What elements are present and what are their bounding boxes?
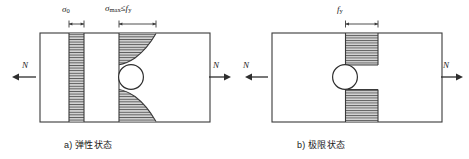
load-arrow-far-right	[441, 74, 463, 81]
dimension-sigma-0	[69, 21, 84, 28]
stress-distribution-figure	[0, 0, 469, 159]
label-f-y-subscript: y	[340, 7, 343, 14]
yield-block-upper-b	[346, 33, 379, 65]
yield-block-lower-b	[346, 90, 379, 123]
label-f-y: fy	[337, 4, 343, 14]
panel-b	[245, 21, 463, 123]
panel-a	[12, 21, 231, 123]
label-sigma-0: σ0	[62, 4, 70, 14]
caption-panel-a: a) 弹性状态	[64, 138, 112, 151]
uniform-stress-block-a	[69, 33, 84, 122]
load-label-mid-left: N	[213, 60, 219, 70]
load-label-far-left: N	[22, 60, 28, 70]
label-sigma-max: σmax≤fy	[105, 3, 131, 13]
load-arrow-far-left	[12, 74, 36, 81]
label-sigma-max-subscript: max	[109, 6, 120, 13]
hole-a	[119, 65, 144, 90]
load-label-far-right: N	[443, 60, 449, 70]
dimension-sigma-max	[119, 21, 156, 28]
load-label-mid-right: N	[243, 60, 249, 70]
hole-b	[333, 65, 358, 90]
load-arrow-mid-right	[245, 74, 268, 81]
load-arrow-mid-left	[209, 74, 231, 81]
dimension-f-y	[346, 21, 379, 28]
caption-panel-b: b) 极限状态	[297, 138, 345, 151]
label-sigma-max-limit-subscript: y	[128, 6, 131, 13]
label-sigma-0-subscript: 0	[66, 7, 69, 14]
